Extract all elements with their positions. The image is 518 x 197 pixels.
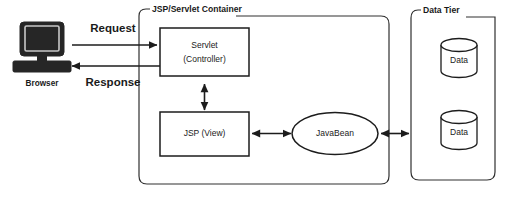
javabean-label: JavaBean <box>316 128 354 138</box>
monitor-screen-icon <box>25 26 59 51</box>
data-bottom-label: Data <box>450 127 468 137</box>
node-jsp-group: JSP (View) <box>160 112 249 156</box>
monitor-neck-icon <box>37 56 47 61</box>
data-top-label: Data <box>450 55 468 65</box>
flow-response-group: Response <box>72 66 160 88</box>
mvc-architecture-diagram: JSP/Servlet Container Data Tier Browser <box>0 0 518 197</box>
node-data-top-group: Data <box>441 39 477 78</box>
jsp-label: JSP (View) <box>184 128 226 138</box>
flow-request-group: Request <box>72 22 157 45</box>
browser-client-group: Browser <box>13 22 71 88</box>
servlet-label-line2: (Controller) <box>183 54 226 64</box>
data-tier-label: Data Tier <box>423 5 460 15</box>
keyboard-icon <box>13 61 71 72</box>
node-javabean-group: JavaBean <box>292 113 378 155</box>
diagram-canvas: JSP/Servlet Container Data Tier Browser <box>0 0 518 197</box>
node-data-bottom-group: Data <box>441 111 477 150</box>
data-bottom-cylinder-top <box>441 111 477 124</box>
node-servlet-group: Servlet (Controller) <box>160 28 249 76</box>
data-tier-container-group: Data Tier <box>411 5 495 180</box>
servlet-container-label: JSP/Servlet Container <box>152 4 242 14</box>
servlet-label-line1: Servlet <box>191 40 218 50</box>
data-top-cylinder-top <box>441 39 477 52</box>
data-tier-border <box>411 10 495 180</box>
request-label: Request <box>90 22 136 34</box>
response-label: Response <box>86 76 141 88</box>
browser-device-label: Browser <box>26 79 60 88</box>
servlet-box <box>160 28 249 76</box>
